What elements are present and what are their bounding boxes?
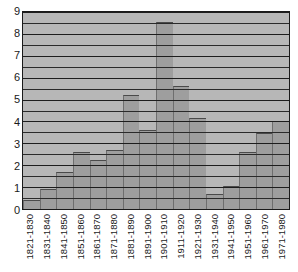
x-axis-tick-label: 1961-1970 xyxy=(260,214,270,259)
x-axis-tick-slot: 1921-1930 xyxy=(190,212,207,272)
y-axis-tick-label: 1 xyxy=(0,183,20,193)
bar xyxy=(156,22,173,209)
bar-slot xyxy=(156,12,173,209)
bar-slot xyxy=(239,12,256,209)
y-axis-tick-label: 6 xyxy=(0,72,20,82)
x-axis-tick-label: 1881-1890 xyxy=(126,214,136,259)
x-axis-tick-slot: 1931-1940 xyxy=(206,212,223,272)
x-axis-tick-label: 1941-1950 xyxy=(227,214,237,259)
x-axis-tick-label: 1891-1900 xyxy=(143,214,153,259)
bar xyxy=(139,130,156,209)
bar-slot xyxy=(23,12,40,209)
bar xyxy=(73,152,90,209)
y-axis-tick-label: 9 xyxy=(0,6,20,16)
bar xyxy=(206,194,223,209)
plot-area xyxy=(22,11,290,210)
x-axis-tick-slot: 1951-1960 xyxy=(240,212,257,272)
bar-slot xyxy=(256,12,273,209)
x-axis-tick-slot: 1941-1950 xyxy=(223,212,240,272)
y-axis: 0123456789 xyxy=(0,11,20,210)
bar-slot xyxy=(139,12,156,209)
bar-slot xyxy=(73,12,90,209)
bar xyxy=(90,160,107,209)
bar xyxy=(256,133,273,209)
bar-slot xyxy=(189,12,206,209)
bar-slot xyxy=(173,12,190,209)
y-axis-tick-label: 0 xyxy=(0,205,20,215)
bar xyxy=(40,189,57,209)
x-axis-tick-slot: 1961-1970 xyxy=(257,212,274,272)
bar xyxy=(239,152,256,209)
x-axis-tick-label: 1871-1880 xyxy=(109,214,119,259)
bar-chart: 0123456789 1821-18301831-18401841-185018… xyxy=(0,0,298,272)
bar-slot xyxy=(123,12,140,209)
x-axis-tick-slot: 1911-1920 xyxy=(173,212,190,272)
x-axis-tick-slot: 1851-1860 xyxy=(72,212,89,272)
x-axis-tick-label: 1821-1830 xyxy=(26,214,36,259)
x-axis-tick-label: 1911-1920 xyxy=(176,214,186,259)
x-axis-tick-label: 1931-1940 xyxy=(210,214,220,259)
y-axis-tick-label: 7 xyxy=(0,50,20,60)
x-axis-tick-slot: 1881-1890 xyxy=(123,212,140,272)
x-axis-tick-label: 1921-1930 xyxy=(193,214,203,259)
bar-slot xyxy=(56,12,73,209)
x-axis-tick-slot: 1861-1870 xyxy=(89,212,106,272)
y-axis-tick-label: 5 xyxy=(0,94,20,104)
bar xyxy=(123,95,140,209)
bar-slot xyxy=(90,12,107,209)
bar xyxy=(223,186,240,209)
bar-slot xyxy=(272,12,289,209)
x-axis-tick-label: 1861-1870 xyxy=(93,214,103,259)
x-axis: 1821-18301831-18401841-18501851-18601861… xyxy=(22,212,290,272)
x-axis-tick-label: 1901-1910 xyxy=(160,214,170,259)
x-axis-tick-slot: 1901-1910 xyxy=(156,212,173,272)
x-axis-tick-slot: 1871-1880 xyxy=(106,212,123,272)
x-axis-tick-label: 1831-1840 xyxy=(42,214,52,259)
x-axis-tick-label: 1951-1960 xyxy=(243,214,253,259)
bar xyxy=(23,200,40,209)
y-axis-tick-label: 8 xyxy=(0,28,20,38)
y-axis-tick-label: 3 xyxy=(0,139,20,149)
bar xyxy=(272,121,289,209)
bar xyxy=(56,172,73,209)
bar-series xyxy=(23,12,289,209)
bar-slot xyxy=(106,12,123,209)
bar-slot xyxy=(206,12,223,209)
x-axis-tick-label: 1851-1860 xyxy=(76,214,86,259)
bar xyxy=(106,150,123,209)
x-axis-tick-slot: 1891-1900 xyxy=(139,212,156,272)
bar-slot xyxy=(223,12,240,209)
x-axis-tick-slot: 1971-1980 xyxy=(273,212,290,272)
y-axis-tick-label: 4 xyxy=(0,117,20,127)
y-axis-tick-label: 2 xyxy=(0,161,20,171)
x-axis-tick-slot: 1841-1850 xyxy=(56,212,73,272)
x-axis-tick-label: 1971-1980 xyxy=(277,214,287,259)
bar-slot xyxy=(40,12,57,209)
bar xyxy=(173,86,190,209)
bar xyxy=(189,118,206,209)
x-axis-tick-slot: 1831-1840 xyxy=(39,212,56,272)
x-axis-tick-label: 1841-1850 xyxy=(59,214,69,259)
x-axis-tick-slot: 1821-1830 xyxy=(22,212,39,272)
